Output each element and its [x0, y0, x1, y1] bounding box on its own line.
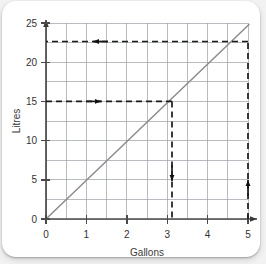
x-tick-label-1: 1 [84, 229, 90, 240]
y-tick-label-10: 10 [26, 135, 38, 146]
x-tick-label-4: 4 [205, 229, 211, 240]
y-tick-label-5: 5 [31, 174, 37, 185]
conversion-chart-figure: 0 5 10 15 20 25 0 1 2 3 4 5 Gallons Litr… [0, 0, 266, 264]
y-tick-label-15: 15 [26, 96, 38, 107]
x-tick-label-2: 2 [124, 229, 130, 240]
y-axis-title: Litres [11, 109, 22, 133]
y-tick-label-25: 25 [26, 18, 38, 29]
conversion-line [46, 25, 249, 220]
x-axis-title: Gallons [130, 247, 164, 258]
x-tick-label-0: 0 [43, 229, 49, 240]
y-tick-label-0: 0 [31, 214, 37, 225]
x-tick-label-3: 3 [164, 229, 170, 240]
x-tick-label-5: 5 [245, 229, 251, 240]
conversion-chart-svg: 0 5 10 15 20 25 0 1 2 3 4 5 Gallons Litr… [0, 0, 266, 264]
y-tick-label-20: 20 [26, 57, 38, 68]
